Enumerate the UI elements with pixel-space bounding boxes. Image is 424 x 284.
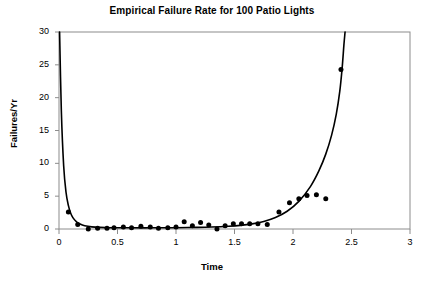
x-tick-label: 3 [395, 237, 424, 247]
data-point [165, 225, 170, 230]
data-point [138, 224, 143, 229]
data-point [265, 222, 270, 227]
data-point [314, 192, 319, 197]
data-point [129, 225, 134, 230]
data-point [276, 209, 281, 214]
fitted-curve [60, 32, 345, 228]
data-point [75, 222, 80, 227]
data-point [66, 209, 71, 214]
y-tick-label: 5 [27, 190, 49, 200]
x-tick-label: 1 [161, 237, 191, 247]
data-point [223, 223, 228, 228]
axes-frame [59, 32, 410, 229]
chart-figure: Empirical Failure Rate for 100 Patio Lig… [0, 0, 424, 284]
data-point [174, 225, 179, 230]
data-point [255, 221, 260, 226]
data-point [305, 193, 310, 198]
data-point [95, 226, 100, 231]
data-point [338, 67, 343, 72]
data-point [156, 226, 161, 231]
data-point [296, 196, 301, 201]
data-point [104, 226, 109, 231]
data-point [247, 221, 252, 226]
data-point [182, 219, 187, 224]
y-tick-label: 15 [27, 125, 49, 135]
data-point [231, 221, 236, 226]
data-point [323, 196, 328, 201]
data-point [190, 223, 195, 228]
x-tick-label: 0.5 [103, 237, 133, 247]
data-point [111, 225, 116, 230]
y-tick-label: 20 [27, 92, 49, 102]
data-point [239, 221, 244, 226]
y-tick-label: 10 [27, 157, 49, 167]
data-point [214, 227, 219, 232]
x-tick-marks [59, 229, 410, 234]
x-tick-label: 2.5 [337, 237, 367, 247]
data-point [206, 223, 211, 228]
x-tick-label: 1.5 [220, 237, 250, 247]
y-tick-label: 30 [27, 26, 49, 36]
y-tick-marks [55, 32, 59, 229]
data-point [198, 220, 203, 225]
data-point-markers [66, 67, 344, 232]
plot-frame [59, 32, 410, 229]
data-point [121, 225, 126, 230]
data-point [287, 200, 292, 205]
y-tick-label: 0 [27, 223, 49, 233]
data-point [148, 225, 153, 230]
y-tick-label: 25 [27, 59, 49, 69]
x-tick-label: 2 [278, 237, 308, 247]
data-point [86, 227, 91, 232]
x-tick-label: 0 [44, 237, 74, 247]
